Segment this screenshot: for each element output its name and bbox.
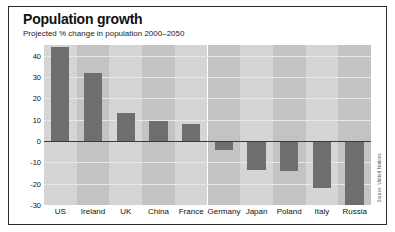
x-axis-tick-label: France <box>175 207 208 216</box>
bar <box>84 73 102 141</box>
y-axis-tick-label: 40 <box>33 52 41 61</box>
y-axis-tick-label: 10 <box>33 116 41 125</box>
x-axis: USIrelandUKChinaFranceGermanyJapanPoland… <box>44 207 371 223</box>
bar <box>345 141 363 205</box>
y-axis-tick-label: -30 <box>30 201 41 210</box>
x-axis-tick-label: Germany <box>208 207 241 216</box>
category-band <box>208 45 241 205</box>
x-axis-tick-label: Japan <box>240 207 273 216</box>
category-band <box>273 45 306 205</box>
x-axis-tick-label: Russia <box>338 207 371 216</box>
title-block: Population growth Projected % change in … <box>23 12 363 39</box>
bar <box>215 141 233 150</box>
y-axis-tick-label: -10 <box>30 158 41 167</box>
y-axis: 403020100-10-20-30 <box>23 45 41 205</box>
bar <box>182 124 200 141</box>
y-axis-tick-label: 0 <box>37 137 41 146</box>
x-axis-tick-label: Italy <box>306 207 339 216</box>
bar <box>117 113 135 141</box>
gridline <box>44 56 371 57</box>
bar <box>149 121 167 141</box>
plot-area-wrapper: 403020100-10-20-30 <box>23 45 371 205</box>
x-axis-tick-label: Poland <box>273 207 306 216</box>
zero-line <box>44 141 371 142</box>
y-axis-tick-label: -20 <box>30 180 41 189</box>
bar <box>51 47 69 141</box>
bar <box>280 141 298 171</box>
chart-title: Population growth <box>23 12 363 27</box>
y-axis-tick-label: 20 <box>33 94 41 103</box>
x-axis-tick-label: China <box>142 207 175 216</box>
x-axis-tick-label: UK <box>109 207 142 216</box>
bar <box>247 141 265 170</box>
x-axis-tick-label: US <box>44 207 77 216</box>
source-credit: Source: United Nations <box>377 153 382 202</box>
chart-frame: Population growth Projected % change in … <box>8 6 387 225</box>
figure-container: Population growth Projected % change in … <box>0 0 395 232</box>
chart-subtitle: Projected % change in population 2000–20… <box>23 29 363 39</box>
y-axis-tick-label: 30 <box>33 73 41 82</box>
category-band <box>240 45 273 205</box>
x-axis-tick-label: Ireland <box>77 207 110 216</box>
plot-area <box>44 45 371 205</box>
bar <box>313 141 331 188</box>
